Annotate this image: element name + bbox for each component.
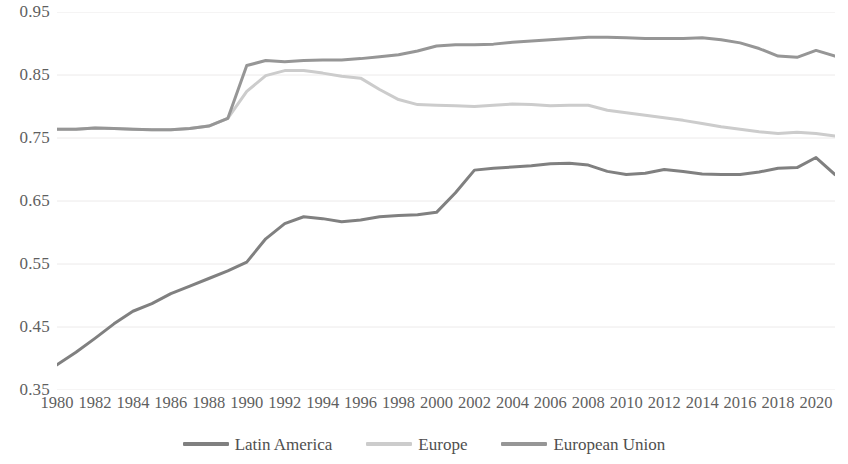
x-axis-tick-label: 2020 — [800, 393, 833, 413]
x-axis-tick-label: 2014 — [686, 393, 719, 413]
legend-item-europe[interactable]: Europe — [366, 435, 467, 454]
x-axis-tick-label: 2010 — [610, 393, 643, 413]
x-axis-tick-label: 1996 — [344, 393, 377, 413]
legend-label: Latin America — [235, 435, 333, 454]
x-axis-tick-label: 2018 — [762, 393, 795, 413]
legend-label: European Union — [553, 435, 665, 454]
x-axis-tick-label: 2008 — [572, 393, 605, 413]
plot-svg — [57, 12, 835, 390]
x-axis-tick-label: 1994 — [306, 393, 339, 413]
x-axis-tick-label: 1982 — [78, 393, 111, 413]
y-axis-tick-label: 0.65 — [4, 192, 50, 209]
x-axis-tick-label: 1992 — [268, 393, 301, 413]
y-axis-tick-label: 0.55 — [4, 255, 50, 272]
series-line-latin-america — [57, 158, 835, 365]
y-axis: 0.950.850.750.650.550.450.35 — [0, 0, 50, 402]
legend-line-swatch-icon — [366, 442, 412, 446]
x-axis-tick-label: 2004 — [496, 393, 529, 413]
x-axis-tick-label: 1980 — [41, 393, 74, 413]
legend-label: Europe — [418, 435, 467, 454]
x-axis-tick-label: 1984 — [116, 393, 149, 413]
x-axis: 1980198219841986198819901992199419961998… — [57, 393, 835, 419]
legend-item-latin-america[interactable]: Latin America — [183, 435, 333, 454]
series-line-european-union — [57, 37, 835, 130]
legend-line-swatch-icon — [183, 442, 229, 446]
y-axis-tick-label: 0.85 — [4, 66, 50, 83]
x-axis-tick-label: 2000 — [420, 393, 453, 413]
x-axis-tick-label: 2012 — [648, 393, 681, 413]
x-axis-tick-label: 1988 — [192, 393, 225, 413]
x-axis-tick-label: 2002 — [458, 393, 491, 413]
legend-line-swatch-icon — [501, 442, 547, 446]
x-axis-tick-label: 2016 — [724, 393, 757, 413]
series-line-europe — [57, 71, 835, 137]
x-axis-tick-label: 2006 — [534, 393, 567, 413]
legend-item-european-union[interactable]: European Union — [501, 435, 665, 454]
x-axis-tick-label: 1998 — [382, 393, 415, 413]
y-axis-tick-label: 0.75 — [4, 129, 50, 146]
y-axis-tick-label: 0.95 — [4, 3, 50, 20]
plot-area — [57, 12, 835, 390]
x-axis-tick-label: 1986 — [154, 393, 187, 413]
chart-legend: Latin AmericaEuropeEuropean Union — [0, 430, 848, 458]
line-chart: 0.950.850.750.650.550.450.35 19801982198… — [0, 0, 848, 464]
x-axis-tick-label: 1990 — [230, 393, 263, 413]
y-axis-tick-label: 0.45 — [4, 318, 50, 335]
